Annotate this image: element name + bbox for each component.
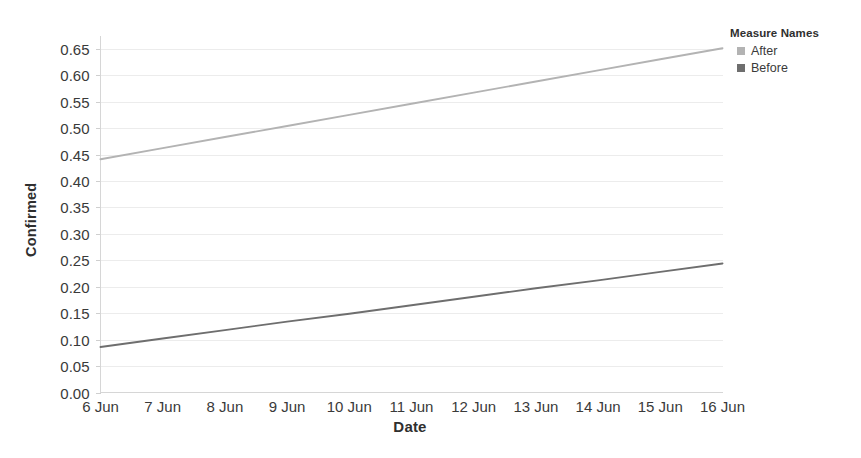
x-tick-label: 16 Jun bbox=[700, 398, 745, 415]
y-tick-label: 0.55 bbox=[60, 94, 89, 111]
x-tick-label: 13 Jun bbox=[513, 398, 558, 415]
legend-swatch-icon bbox=[737, 64, 745, 72]
x-tick-label: 11 Jun bbox=[390, 398, 434, 415]
y-axis-tick-labels: 0.000.050.100.150.200.250.300.350.400.45… bbox=[60, 41, 89, 402]
y-tick-label: 0.50 bbox=[60, 120, 89, 137]
legend-title: Measure Names bbox=[730, 27, 855, 39]
y-tick-label: 0.15 bbox=[60, 305, 89, 322]
series-line-after[interactable] bbox=[101, 48, 723, 159]
x-tick-label: 14 Jun bbox=[576, 398, 621, 415]
x-tick-label: 9 Jun bbox=[269, 398, 306, 415]
y-tick-label: 0.20 bbox=[60, 279, 89, 296]
legend-item-label: Before bbox=[751, 61, 788, 75]
data-series[interactable] bbox=[101, 48, 723, 347]
y-tick-label: 0.45 bbox=[60, 147, 89, 164]
y-tick-label: 0.05 bbox=[60, 358, 89, 375]
x-tick-label: 8 Jun bbox=[207, 398, 244, 415]
legend-items: AfterBefore bbox=[730, 44, 855, 75]
x-tick-label: 15 Jun bbox=[638, 398, 683, 415]
y-tick-label: 0.10 bbox=[60, 332, 89, 349]
y-tick-label: 0.35 bbox=[60, 199, 89, 216]
x-tick-label: 7 Jun bbox=[144, 398, 181, 415]
x-axis-tick-labels: 6 Jun7 Jun8 Jun9 Jun10 Jun11 Jun12 Jun13… bbox=[82, 398, 745, 415]
legend-item-before[interactable]: Before bbox=[737, 61, 855, 75]
x-axis-title: Date bbox=[100, 418, 720, 435]
legend-swatch-icon bbox=[737, 47, 745, 55]
x-tick-label: 12 Jun bbox=[451, 398, 496, 415]
y-tick-label: 0.30 bbox=[60, 226, 89, 243]
series-line-before[interactable] bbox=[101, 263, 723, 347]
y-tick-label: 0.40 bbox=[60, 173, 89, 190]
legend-item-after[interactable]: After bbox=[737, 44, 855, 58]
line-chart: Confirmed 0.000.050.100.150.200.250.300.… bbox=[0, 0, 861, 458]
legend: Measure Names AfterBefore bbox=[730, 27, 855, 78]
axis-lines bbox=[101, 36, 723, 393]
y-tick-label: 0.25 bbox=[60, 252, 89, 269]
legend-item-label: After bbox=[751, 44, 777, 58]
x-tick-label: 6 Jun bbox=[82, 398, 119, 415]
y-tick-label: 0.60 bbox=[60, 67, 89, 84]
axis-tickmarks bbox=[96, 50, 101, 394]
x-tick-label: 10 Jun bbox=[327, 398, 372, 415]
y-tick-label: 0.65 bbox=[60, 41, 89, 58]
gridlines bbox=[101, 50, 723, 367]
